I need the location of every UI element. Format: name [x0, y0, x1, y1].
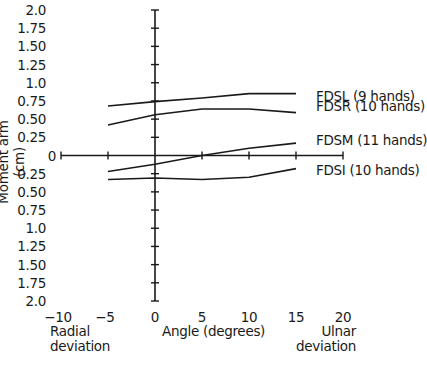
x-tick-label: 0: [151, 310, 159, 324]
y-tick-label: 0.75: [0, 94, 46, 108]
y-tick-label: 1.75: [0, 276, 46, 290]
y-axis-label: Moment arm (cm): [0, 107, 27, 217]
y-tick-label: 2.0: [0, 294, 46, 308]
y-tick-label: 1.50: [0, 39, 46, 53]
radial-label-line1: Radial: [50, 324, 110, 339]
y-tick-label: 1.25: [0, 58, 46, 72]
x-tick-label: 10: [241, 310, 258, 324]
radial-deviation-label: Radial deviation: [50, 324, 110, 354]
y-tick-label: 1.75: [0, 21, 46, 35]
ulnar-deviation-label: Ulnar deviation: [296, 324, 356, 354]
x-tick-label: 5: [198, 310, 206, 324]
legend-fdsi: FDSI (10 hands): [316, 163, 420, 178]
series-line-fdsr: [108, 109, 296, 125]
x-tick-label: −10: [44, 310, 72, 324]
x-axis-label: Angle (degrees): [162, 324, 265, 339]
y-tick-label: 1.25: [0, 239, 46, 253]
y-tick-label: 1.50: [0, 258, 46, 272]
legend-fdsr: FDSR (10 hands): [316, 99, 425, 114]
ulnar-label-line2: deviation: [296, 339, 356, 354]
x-tick-label: −5: [95, 310, 114, 324]
x-tick-label: 20: [335, 310, 352, 324]
y-tick-label: 2.0: [0, 3, 46, 17]
ulnar-label-line1: Ulnar: [296, 324, 356, 339]
radial-label-line2: deviation: [50, 339, 110, 354]
series-line-fdsl: [108, 94, 296, 106]
y-tick-label: 1.0: [0, 76, 46, 90]
y-tick-label: 1.0: [0, 221, 46, 235]
legend-fdsm: FDSM (11 hands): [316, 133, 427, 148]
series-line-fdsi: [108, 169, 296, 180]
x-tick-label: 15: [288, 310, 305, 324]
